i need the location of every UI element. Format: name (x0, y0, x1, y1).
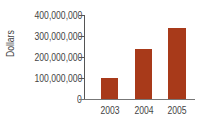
x-tick-label: 2004 (132, 104, 157, 116)
y-tick (79, 78, 84, 79)
bar-2004 (135, 49, 152, 99)
y-tick-label: 400,000,000 (34, 9, 82, 21)
y-tick-label: 300,000,000 (34, 30, 82, 42)
x-axis (79, 99, 195, 100)
x-tick-label: 2005 (165, 104, 190, 116)
y-tick (79, 15, 84, 16)
bar-2005 (168, 28, 186, 99)
y-tick (79, 36, 84, 37)
x-tick-label: 2003 (98, 104, 123, 116)
y-tick-label: 200,000,000 (34, 51, 82, 63)
y-axis (84, 15, 85, 100)
y-tick-label: 100,000,000 (34, 72, 82, 84)
y-tick (79, 57, 84, 58)
y-axis-title: Dollars (4, 30, 16, 57)
bar-2003 (101, 78, 118, 99)
bar-chart: Dollars 400,000,000 300,000,000 200,000,… (0, 0, 210, 128)
